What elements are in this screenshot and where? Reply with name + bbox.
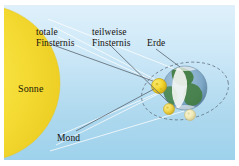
leader-mond-line — [76, 89, 154, 131]
label-teilweise-line1: teilweise — [92, 27, 127, 37]
label-sonne: Sonne — [18, 84, 44, 95]
moon-partial-eclipse — [164, 104, 175, 115]
label-totale-finsternis: totale Finsternis — [36, 27, 74, 48]
moon-total-eclipse — [152, 79, 167, 94]
label-mond: Mond — [57, 133, 80, 144]
label-totale-line2: Finsternis — [36, 38, 74, 49]
leader-erde-line — [156, 49, 180, 67]
label-teilweise-line2: Finsternis — [92, 38, 130, 49]
leader-teilweise-line — [110, 45, 168, 102]
label-erde: Erde — [147, 38, 165, 49]
moon-far-position — [185, 110, 196, 121]
leader-totale-line — [53, 45, 153, 81]
label-teilweise-finsternis: teilweise Finsternis — [92, 27, 130, 48]
eclipse-diagram: totale Finsternis teilweise Finsternis E… — [0, 0, 239, 166]
label-totale-line1: totale — [36, 27, 58, 37]
diagram-canvas: totale Finsternis teilweise Finsternis E… — [4, 5, 235, 160]
